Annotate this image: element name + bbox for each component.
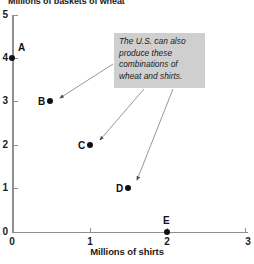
data-point-c[interactable] [87, 142, 94, 149]
data-point-d[interactable] [125, 185, 132, 192]
y-tick-mark-2 [14, 145, 18, 146]
annotation-callout-box: The U.S. can also produce these combinat… [114, 33, 205, 88]
data-point-label-d: D [116, 183, 123, 194]
y-tick-label-4: 4 [0, 52, 8, 63]
data-point-label-b: B [38, 96, 45, 107]
data-point-label-e: E [163, 215, 170, 226]
y-tick-label-1: 1 [0, 182, 8, 193]
y-tick-label-3: 3 [0, 95, 8, 106]
y-tick-mark-3 [14, 101, 18, 102]
annotation-callout-text: The U.S. can also produce these combinat… [119, 36, 201, 82]
y-tick-mark-1 [14, 188, 18, 189]
data-point-label-a: A [18, 42, 25, 53]
y-tick-mark-5 [14, 15, 18, 16]
x-axis-title: Millions of shirts [0, 246, 254, 257]
x-tick-mark-1 [90, 228, 91, 232]
annotation-arrow-to-b [60, 64, 113, 98]
x-axis-line [12, 232, 248, 234]
data-point-e[interactable] [164, 229, 171, 236]
y-axis-title: Millions of baskets of wheat [8, 0, 125, 6]
annotation-arrow-to-c [100, 89, 144, 140]
production-possibilities-scatter-chart: Millions of baskets of wheat 5 4 3 2 1 0… [0, 0, 254, 264]
y-tick-label-2: 2 [0, 139, 8, 150]
data-point-label-c: C [78, 140, 85, 151]
y-tick-label-5: 5 [0, 9, 8, 20]
y-axis-line [12, 15, 14, 233]
data-point-a[interactable] [9, 55, 16, 62]
annotation-arrow-to-d [137, 89, 173, 180]
x-tick-mark-3 [245, 228, 246, 232]
data-point-b[interactable] [47, 98, 54, 105]
